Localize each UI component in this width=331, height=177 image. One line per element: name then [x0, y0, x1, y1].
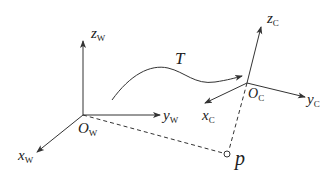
point-projection: p: [83, 83, 247, 170]
world-z-label: zW: [90, 25, 106, 43]
camera-x-axis: [205, 83, 247, 103]
transform-label: T: [175, 49, 186, 68]
camera-z-axis: [247, 27, 261, 83]
world-origin-label: OW: [78, 120, 98, 138]
camera-to-point-dashed-line: [229, 83, 247, 150]
coordinate-transform-diagram: zW yW xW OW T zC yC xC OC: [0, 0, 331, 177]
point-p-label: p: [233, 147, 245, 170]
camera-x-label: xC: [201, 107, 215, 125]
transform-arrow: T: [112, 49, 242, 100]
world-y-label: yW: [161, 107, 179, 125]
world-x-axis: [37, 115, 83, 152]
camera-origin-label: OC: [248, 86, 264, 103]
camera-frame: zC yC xC OC: [201, 10, 320, 125]
camera-z-label: zC: [266, 10, 279, 28]
camera-y-label: yC: [305, 91, 320, 109]
point-p-marker: [224, 151, 230, 157]
world-frame: zW yW xW OW: [17, 25, 179, 165]
world-x-label: xW: [17, 147, 34, 165]
